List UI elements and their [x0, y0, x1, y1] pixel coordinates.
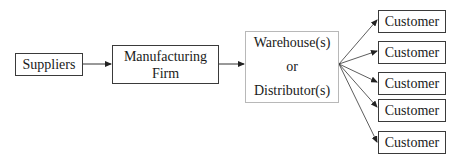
customer-box-1: Customer — [378, 10, 446, 33]
manufacturing-label-line2: Firm — [152, 65, 179, 82]
manufacturing-label-line1: Manufacturing — [124, 48, 207, 65]
warehouse-label-line1: Warehouse(s) — [254, 31, 331, 55]
arrow-warehouse-to-customer-4 — [339, 64, 377, 107]
customer-box-3: Customer — [378, 72, 446, 95]
customer-label: Customer — [385, 102, 439, 119]
warehouse-label-line2: or — [286, 55, 298, 79]
arrow-warehouse-to-customer-5 — [339, 64, 377, 142]
customer-label: Customer — [385, 44, 439, 61]
suppliers-box: Suppliers — [15, 53, 83, 76]
arrow-warehouse-to-customer-3 — [339, 64, 377, 82]
customer-box-4: Customer — [378, 99, 446, 122]
customer-label: Customer — [385, 134, 439, 151]
suppliers-label: Suppliers — [23, 56, 76, 73]
customer-box-5: Customer — [378, 131, 446, 154]
customer-label: Customer — [385, 13, 439, 30]
customer-label: Customer — [385, 75, 439, 92]
warehouse-label-line3: Distributor(s) — [254, 79, 330, 103]
manufacturing-firm-box: Manufacturing Firm — [112, 45, 219, 84]
warehouse-distributor-box: Warehouse(s) or Distributor(s) — [245, 31, 339, 103]
customer-box-2: Customer — [378, 41, 446, 64]
